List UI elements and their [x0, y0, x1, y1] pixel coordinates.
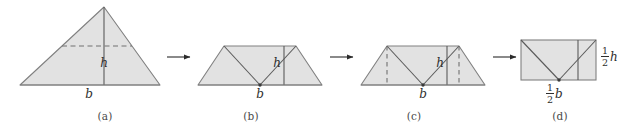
half-height-fraction-d: 1 2 — [601, 46, 609, 67]
height-label-a: h — [100, 56, 108, 70]
half-base-numerator-d: 1 — [546, 83, 554, 94]
rectangle-d — [521, 40, 596, 80]
figure-graphics — [0, 0, 629, 132]
panel-caption-c: (c) — [407, 110, 422, 122]
base-label-b: b — [256, 87, 264, 101]
half-base-label-d: 1 2 b — [546, 83, 563, 104]
half-base-variable-d: b — [555, 88, 563, 100]
panel-d-graphic — [521, 40, 596, 82]
panel-b-graphic — [198, 46, 322, 87]
panel-c-graphic — [361, 46, 485, 87]
half-base-denominator-d: 2 — [546, 94, 554, 104]
trapezoid-b — [198, 46, 322, 85]
height-label-b: h — [273, 56, 281, 70]
half-height-denominator-d: 2 — [601, 57, 609, 67]
half-base-fraction-d: 1 2 — [546, 83, 554, 104]
half-height-label-d: 1 2 h — [601, 46, 618, 67]
trapezoid-c — [361, 46, 485, 85]
panel-caption-b: (b) — [243, 110, 259, 122]
panel-caption-a: (a) — [97, 110, 112, 122]
base-label-a: b — [85, 87, 93, 101]
vertex-dot-d — [557, 78, 560, 81]
panel-a-graphic — [20, 7, 160, 85]
base-label-c: b — [419, 87, 427, 101]
half-height-variable-d: h — [610, 51, 618, 63]
figure-container: h b h b h b 1 2 h 1 2 b (a) (b) (c) (d) — [0, 0, 629, 132]
panel-caption-d: (d) — [552, 110, 568, 122]
half-height-numerator-d: 1 — [601, 46, 609, 57]
height-label-c: h — [436, 56, 444, 70]
